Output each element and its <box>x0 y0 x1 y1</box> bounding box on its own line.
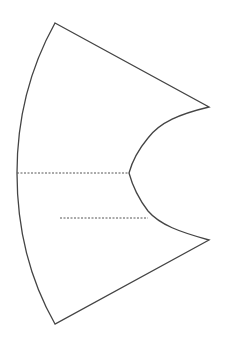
diagram-canvas <box>0 0 227 347</box>
pattern-piece-drawing <box>0 0 227 347</box>
